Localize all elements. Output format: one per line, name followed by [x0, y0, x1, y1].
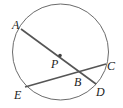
label-d: D: [96, 86, 105, 98]
label-a: A: [12, 19, 19, 31]
chord-ec: [25, 64, 106, 87]
center-point-dot: [58, 54, 62, 58]
label-e: E: [14, 89, 21, 101]
label-p: P: [51, 58, 58, 70]
circle: [13, 4, 109, 100]
label-c: C: [107, 60, 115, 72]
label-b: B: [74, 76, 81, 88]
chord-ad: [21, 29, 96, 84]
